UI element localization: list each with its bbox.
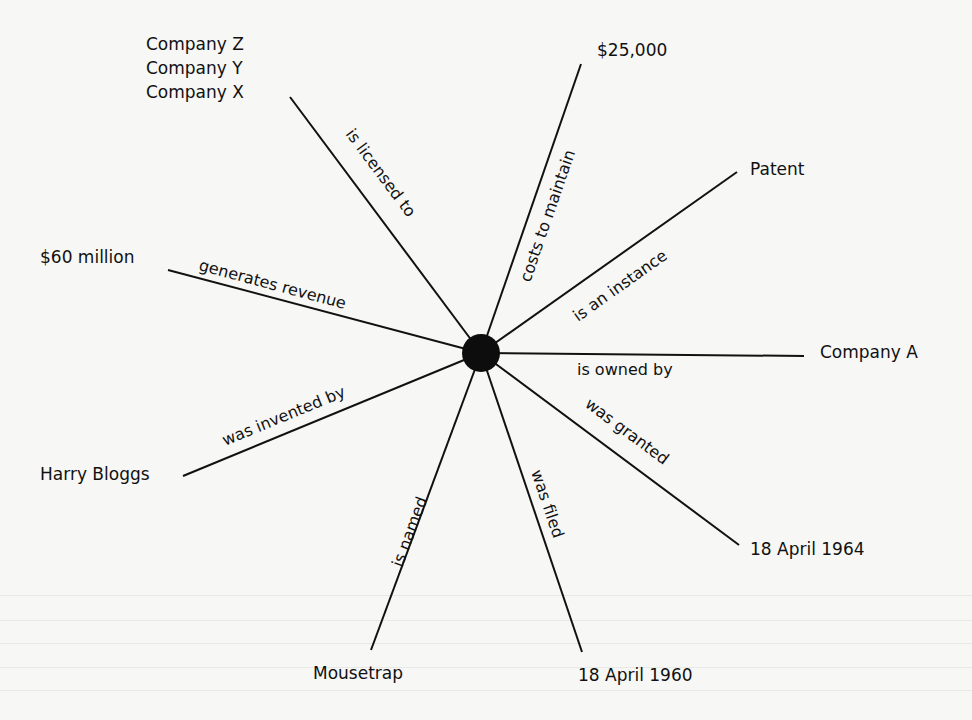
edge-is-an-instance: is an instance [481,172,737,353]
node-granted-date: 18 April 1964 [750,537,865,561]
edge-generates-revenue: generates revenue [168,256,481,353]
edge-label-is-owned-by: is owned by [577,360,673,379]
edge-is-licensed-to: is licensed to [290,97,481,353]
edge-was-granted: was granted [481,353,739,545]
center-node [462,334,500,372]
node-company-z: Company Z [146,32,244,56]
edge-label-is-licensed-to: is licensed to [342,125,420,221]
node-cost: $25,000 [597,38,667,62]
node-owner: Company A [820,340,918,364]
node-patent: Patent [750,157,804,181]
edge-is-owned-by: is owned by [481,353,804,379]
edge-was-invented-by: was invented by [183,353,481,476]
edge-label-costs-to-maintain: costs to maintain [516,147,579,284]
edge-label-was-granted: was granted [582,394,673,469]
node-inventor: Harry Bloggs [40,462,150,486]
edge-was-filed: was filed [481,353,582,652]
node-name: Mousetrap [313,661,403,685]
edge-is-named: is named [371,353,481,650]
edge-label-is-named: is named [388,494,431,569]
edge-label-was-filed: was filed [527,467,568,540]
node-company-x: Company X [146,80,244,104]
edge-label-is-an-instance: is an instance [569,246,670,325]
node-revenue: $60 million [40,245,134,269]
edge-costs-to-maintain: costs to maintain [481,64,581,353]
node-company-y: Company Y [146,56,244,80]
node-licensees: Company Z Company Y Company X [146,32,244,104]
node-filed-date: 18 April 1960 [578,663,693,687]
